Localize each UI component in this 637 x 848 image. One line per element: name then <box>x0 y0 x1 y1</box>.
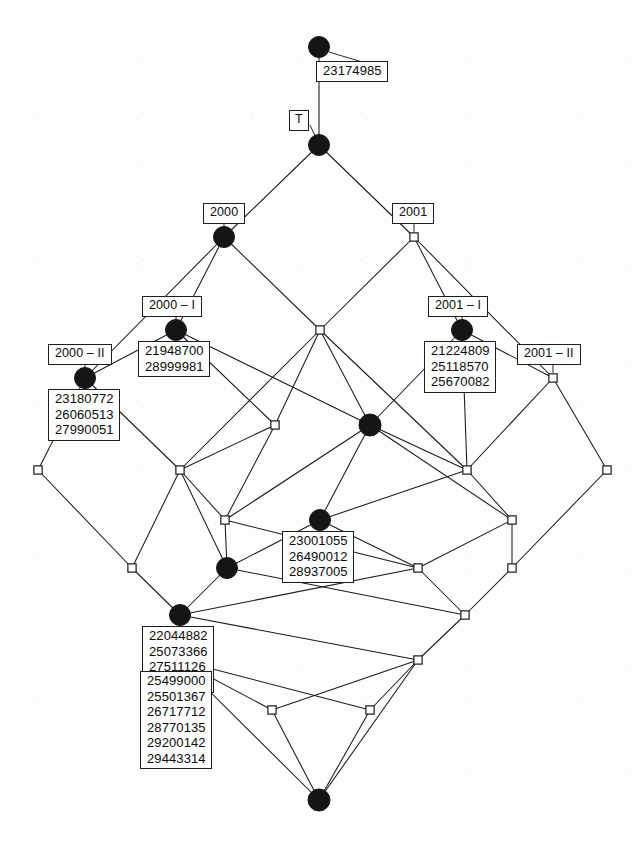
lattice-node-filled[interactable] <box>170 605 191 626</box>
lattice-node-open[interactable] <box>128 564 136 572</box>
lattice-edge <box>180 425 275 470</box>
lattice-node-filled[interactable] <box>214 227 235 248</box>
lattice-node-open[interactable] <box>316 326 324 334</box>
lattice-diagram-canvas: 23174985T200020012000 – I21948700 289999… <box>0 0 637 848</box>
lattice-edge <box>38 470 132 568</box>
lattice-node-open[interactable] <box>508 564 516 572</box>
node-layer <box>34 37 611 812</box>
attribute-label-box[interactable]: 2001 – I <box>428 296 488 317</box>
attribute-label-box[interactable]: 2000 <box>203 203 245 224</box>
lattice-node-open[interactable] <box>221 516 229 524</box>
attribute-label-box[interactable]: T <box>289 110 309 131</box>
lattice-node-filled[interactable] <box>217 558 238 579</box>
lattice-node-open[interactable] <box>410 233 418 241</box>
lattice-edge <box>418 520 512 568</box>
edge-layer <box>38 47 607 800</box>
lattice-node-open[interactable] <box>414 564 422 572</box>
lattice-edge <box>132 470 180 568</box>
lattice-edge <box>272 710 319 800</box>
lattice-node-open[interactable] <box>414 656 422 664</box>
object-label-box[interactable]: 21224809 25118570 25670082 <box>424 341 496 393</box>
lattice-edge <box>370 425 467 470</box>
lattice-node-filled[interactable] <box>166 320 187 341</box>
lattice-edge <box>272 660 418 710</box>
lattice-node-filled[interactable] <box>309 37 330 58</box>
lattice-node-open[interactable] <box>34 466 42 474</box>
lattice-node-open[interactable] <box>176 466 184 474</box>
lattice-node-open[interactable] <box>268 706 276 714</box>
lattice-edge <box>319 710 370 800</box>
lattice-edge <box>418 615 465 660</box>
object-label-box[interactable]: 23174985 <box>316 61 388 82</box>
lattice-edge <box>370 660 418 710</box>
attribute-label-box[interactable]: 2000 – I <box>142 296 202 317</box>
lattice-edge <box>180 470 225 520</box>
lattice-edge <box>224 237 320 330</box>
lattice-node-open[interactable] <box>271 421 279 429</box>
lattice-edge <box>225 425 275 520</box>
lattice-node-open[interactable] <box>461 611 469 619</box>
lattice-edge <box>370 425 512 520</box>
lattice-node-open[interactable] <box>366 706 374 714</box>
lattice-node-filled[interactable] <box>308 789 330 811</box>
lattice-node-filled[interactable] <box>309 135 330 156</box>
lattice-node-open[interactable] <box>603 466 611 474</box>
lattice-edge <box>465 568 512 615</box>
lattice-edge <box>319 660 418 800</box>
lattice-edge <box>180 615 418 660</box>
lattice-node-open[interactable] <box>463 466 471 474</box>
lattice-edge <box>275 330 320 425</box>
lattice-node-open[interactable] <box>508 516 516 524</box>
lattice-node-filled[interactable] <box>310 510 331 531</box>
lattice-edge <box>418 568 465 615</box>
lattice-node-open[interactable] <box>549 374 557 382</box>
attribute-label-box[interactable]: 2000 – II <box>48 344 112 365</box>
attribute-label-box[interactable]: 2001 – II <box>517 344 581 365</box>
object-label-box[interactable]: 21948700 28999981 <box>138 341 210 377</box>
lattice-node-filled[interactable] <box>75 368 96 389</box>
lattice-edge <box>320 330 370 425</box>
lattice-edge <box>180 470 227 568</box>
lattice-edge <box>553 378 607 470</box>
lattice-edge <box>225 425 370 520</box>
attribute-label-box[interactable]: 2001 <box>392 203 434 224</box>
lattice-node-filled[interactable] <box>359 414 381 436</box>
lattice-edge <box>320 237 414 330</box>
object-label-box[interactable]: 23180772 26060513 27990051 <box>48 389 120 441</box>
object-label-box[interactable]: 23001055 26490012 28937005 <box>282 531 354 583</box>
lattice-node-filled[interactable] <box>452 320 473 341</box>
object-label-box[interactable]: 25499000 25501367 26717712 28770135 2920… <box>140 671 212 769</box>
lattice-edge <box>512 470 607 568</box>
